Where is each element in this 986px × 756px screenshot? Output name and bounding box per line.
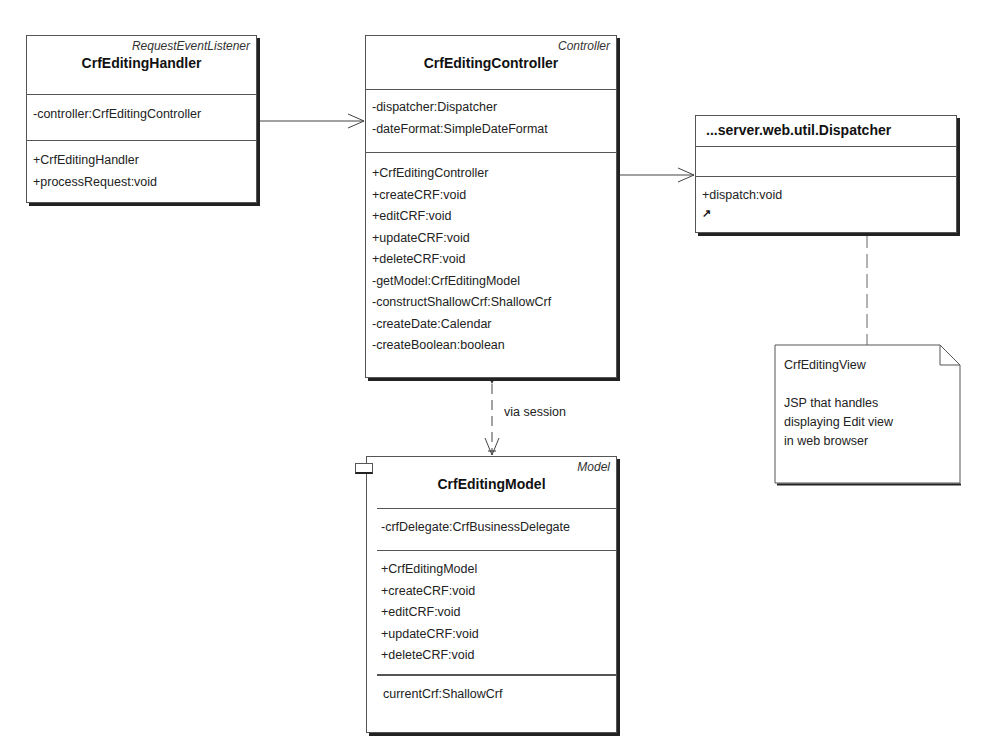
operation: -createBoolean:boolean xyxy=(372,335,610,357)
extra-section: currentCrf:ShallowCrf xyxy=(377,675,616,710)
shortcut-arrow-icon: ↗ xyxy=(702,208,711,219)
operation: +CrfEditingController xyxy=(372,163,610,185)
operation: -createDate:Calendar xyxy=(372,314,610,336)
operation: +processRequest:void xyxy=(33,172,250,194)
class-crf-editing-handler[interactable]: RequestEventListener CrfEditingHandler -… xyxy=(26,35,257,203)
operation: +createCRF:void xyxy=(381,581,610,603)
stereotype-label: Model xyxy=(367,457,616,474)
stereotype-label: Controller xyxy=(366,36,616,53)
controller-model-dependency xyxy=(485,378,499,455)
operation: +updateCRF:void xyxy=(381,624,610,646)
attribute: -controller:CrfEditingController xyxy=(33,104,250,126)
class-name: CrfEditingController xyxy=(366,53,616,71)
property: currentCrf:ShallowCrf xyxy=(383,684,610,706)
attribute: -dispatcher:Dispatcher xyxy=(372,97,610,119)
operations-section: +CrfEditingHandler +processRequest:void xyxy=(27,141,256,197)
operation: +deleteCRF:void xyxy=(372,249,610,271)
handler-controller-association xyxy=(258,114,364,128)
note-line: JSP that handles xyxy=(784,394,893,413)
attributes-section xyxy=(696,147,956,177)
note-title: CrfEditingView xyxy=(784,356,893,375)
note-line: in web browser xyxy=(784,432,893,451)
attributes-section: -crfDelegate:CrfBusinessDelegate xyxy=(377,508,616,551)
class-name: CrfEditingHandler xyxy=(27,53,256,71)
component-tab-icon xyxy=(355,463,373,474)
note-crf-editing-view[interactable]: CrfEditingView JSP that handles displayi… xyxy=(775,345,961,484)
operation: +CrfEditingHandler xyxy=(33,150,250,172)
operation: -getModel:CrfEditingModel xyxy=(372,271,610,293)
class-crf-editing-model[interactable]: Model CrfEditingModel -crfDelegate:CrfBu… xyxy=(366,456,617,733)
class-dispatcher[interactable]: ...server.web.util.Dispatcher +dispatch:… xyxy=(695,115,957,233)
class-name: CrfEditingModel xyxy=(367,474,616,492)
attribute: -crfDelegate:CrfBusinessDelegate xyxy=(381,517,610,539)
class-crf-editing-controller[interactable]: Controller CrfEditingController -dispatc… xyxy=(365,35,617,378)
note-line: displaying Edit view xyxy=(784,413,893,432)
operation: +deleteCRF:void xyxy=(381,645,610,667)
stereotype-label: RequestEventListener xyxy=(27,36,256,53)
dependency-source-marker xyxy=(489,378,495,384)
class-name: ...server.web.util.Dispatcher xyxy=(706,116,956,138)
operation: +editCRF:void xyxy=(372,206,610,228)
operations-section: +CrfEditingController +createCRF:void +e… xyxy=(366,153,616,361)
dependency-label: via session xyxy=(504,405,566,419)
operation: +createCRF:void xyxy=(372,185,610,207)
operation: +editCRF:void xyxy=(381,602,610,624)
controller-dispatcher-association xyxy=(618,168,694,182)
operations-section: +dispatch:void ↗ xyxy=(696,177,956,211)
operation: +updateCRF:void xyxy=(372,228,610,250)
operation: -constructShallowCrf:ShallowCrf xyxy=(372,292,610,314)
attribute: -dateFormat:SimpleDateFormat xyxy=(372,119,610,141)
operation: +dispatch:void xyxy=(702,185,950,207)
attributes-section: -controller:CrfEditingController xyxy=(27,95,256,141)
note-spacer xyxy=(784,375,893,394)
operation: +CrfEditingModel xyxy=(381,559,610,581)
attributes-section: -dispatcher:Dispatcher -dateFormat:Simpl… xyxy=(366,90,616,153)
operations-section: +CrfEditingModel +createCRF:void +editCR… xyxy=(377,551,616,675)
